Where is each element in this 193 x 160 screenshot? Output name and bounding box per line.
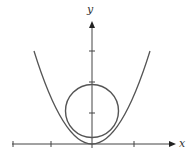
y-axis-label: y bbox=[87, 4, 93, 15]
x-axis-arrow-icon bbox=[169, 141, 176, 147]
y-axis-arrow-icon bbox=[89, 21, 95, 28]
x-axis-label: x bbox=[179, 138, 185, 149]
diagram: y x bbox=[0, 0, 193, 160]
diagram-canvas bbox=[0, 0, 193, 160]
